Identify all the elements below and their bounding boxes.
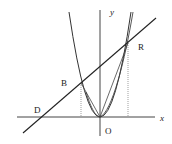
origin-label: O bbox=[105, 126, 112, 136]
point-b-label: B bbox=[61, 78, 67, 88]
point-d-label: D bbox=[34, 105, 41, 115]
narrow-parabola-curve bbox=[86, 12, 133, 117]
secant-line bbox=[23, 18, 156, 133]
chord-o-b bbox=[81, 83, 100, 117]
point-r-label: R bbox=[138, 42, 144, 52]
y-axis-label: y bbox=[109, 7, 114, 17]
x-axis-label: x bbox=[159, 113, 164, 123]
diagram-canvas: y x O D B R bbox=[0, 0, 172, 144]
